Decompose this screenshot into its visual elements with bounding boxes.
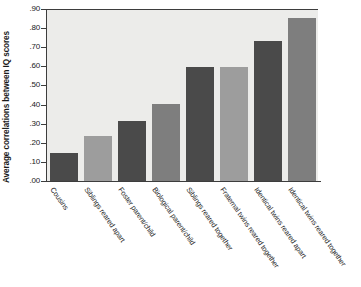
y-axis-title: Average correlations between IQ scores — [0, 22, 14, 192]
bar — [186, 67, 214, 182]
x-axis-label: Fraternal twins reared together — [218, 186, 280, 270]
y-tick-mark — [41, 28, 47, 29]
y-tick-label: .10 — [18, 158, 40, 166]
y-tick-mark — [41, 105, 47, 106]
y-tick-mark — [41, 143, 47, 144]
y-tick-label: .30 — [18, 120, 40, 128]
bar — [288, 18, 316, 182]
x-axis-label: Siblings reared apart — [82, 186, 126, 244]
x-axis-line — [43, 181, 321, 182]
x-axis-label: Cousins — [48, 186, 69, 212]
bar — [50, 153, 78, 182]
y-tick-mark — [41, 124, 47, 125]
bar — [152, 104, 180, 182]
y-tick-label-text: .20 — [20, 139, 40, 147]
y-tick-label: .00 — [18, 177, 40, 185]
bar — [84, 136, 112, 182]
y-tick-label: .70 — [18, 43, 40, 51]
bars-layer — [47, 10, 319, 182]
y-tick-label-text: .10 — [20, 158, 40, 166]
x-axis-label: Foster parent/child — [116, 186, 156, 238]
y-tick-label-text: .30 — [20, 120, 40, 128]
y-tick-mark — [41, 181, 47, 182]
y-tick-label-text: .50 — [20, 81, 40, 89]
y-tick-mark — [41, 9, 47, 10]
y-tick-label-text: .00 — [20, 177, 40, 185]
bar — [220, 67, 248, 182]
x-axis-label: Biological parent/child — [150, 186, 196, 247]
y-tick-label: .90 — [18, 5, 40, 13]
y-tick-label-text: .70 — [20, 43, 40, 51]
y-tick-mark — [41, 162, 47, 163]
y-tick-label: .60 — [18, 62, 40, 70]
y-tick-label: .80 — [18, 24, 40, 32]
y-tick-label: .20 — [18, 139, 40, 147]
x-axis-label: Identical twins reared apart — [252, 186, 307, 260]
bar — [118, 121, 146, 182]
x-axis-label: Siblings reared together — [184, 186, 233, 252]
bar-chart: Average correlations between IQ scores .… — [0, 0, 361, 287]
y-tick-label: .40 — [18, 101, 40, 109]
plot-area — [46, 9, 318, 181]
y-tick-label-text: .80 — [20, 24, 40, 32]
y-tick-label-text: .40 — [20, 101, 40, 109]
y-tick-mark — [41, 85, 47, 86]
y-tick-label: .50 — [18, 81, 40, 89]
y-tick-mark — [41, 47, 47, 48]
x-axis-label: Identical twins reared together — [286, 186, 347, 268]
y-tick-label-text: .60 — [20, 62, 40, 70]
bar — [254, 41, 282, 182]
y-tick-mark — [41, 66, 47, 67]
y-tick-label-text: .90 — [20, 5, 40, 13]
